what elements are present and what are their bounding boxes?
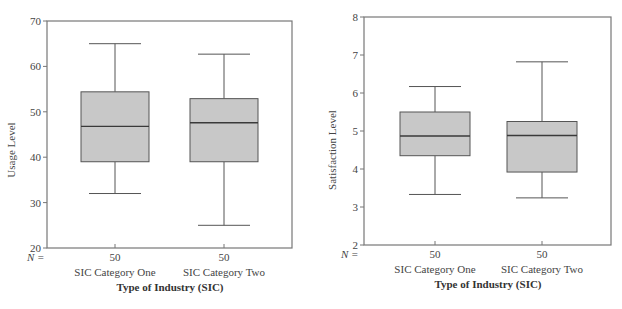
n-label: N = <box>26 251 45 263</box>
box-category-one <box>81 44 149 194</box>
y-tick-label: 5 <box>353 125 359 137</box>
box-category-two <box>190 54 258 225</box>
category-label: SIC Category One <box>74 266 155 278</box>
x-axis-title: Type of Industry (SIC) <box>116 281 223 294</box>
y-tick-label: 70 <box>30 15 42 27</box>
iqr-box <box>400 112 470 156</box>
y-tick-label: 30 <box>30 197 42 209</box>
y-tick-label: 40 <box>30 151 42 163</box>
category-label: SIC Category Two <box>183 266 266 278</box>
n-value: 50 <box>537 248 549 260</box>
n-value: 50 <box>219 251 231 263</box>
box-category-two <box>507 62 577 198</box>
y-axis-title: Usage Level <box>5 122 17 177</box>
x-axis-title: Type of Industry (SIC) <box>434 278 541 291</box>
n-label: N = <box>340 248 359 260</box>
y-axis-title: Satisfaction Level <box>326 110 338 190</box>
y-tick-label: 7 <box>353 49 359 61</box>
category-label: SIC Category Two <box>501 263 584 275</box>
usage-level-chart: 203040506070Usage LevelN =50SIC Category… <box>5 15 292 294</box>
box-category-one <box>400 87 470 195</box>
y-tick-label: 60 <box>30 60 42 72</box>
y-tick-label: 4 <box>353 163 359 175</box>
boxplot-figure: 203040506070Usage LevelN =50SIC Category… <box>0 0 622 309</box>
y-tick-label: 50 <box>30 106 42 118</box>
y-tick-label: 8 <box>353 11 359 23</box>
iqr-box <box>507 122 577 173</box>
y-tick-label: 3 <box>353 201 359 213</box>
n-value: 50 <box>430 248 442 260</box>
y-tick-label: 6 <box>353 87 359 99</box>
category-label: SIC Category One <box>394 263 475 275</box>
satisfaction-level-chart: 2345678Satisfaction LevelN =50SIC Catego… <box>326 11 611 291</box>
iqr-box <box>190 99 258 162</box>
n-value: 50 <box>110 251 122 263</box>
